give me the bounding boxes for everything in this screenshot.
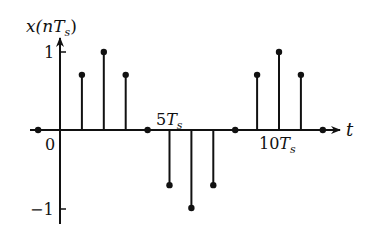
y-axis-label: x(nTs) — [26, 16, 77, 39]
x-axis-label: t — [346, 119, 354, 140]
stem-point — [254, 72, 260, 78]
stem-plot: x(nTs) 1 −1 0 5Ts 10Ts t — [0, 0, 368, 231]
stem-point — [188, 205, 194, 211]
stem-point — [298, 72, 304, 78]
stem-point — [166, 182, 172, 188]
x-tick-label-10Ts: 10Ts — [259, 134, 296, 156]
stem-point — [320, 127, 326, 133]
stem-point — [210, 182, 216, 188]
x-tick-label-5Ts: 5Ts — [156, 110, 183, 132]
y-tick-label-1: 1 — [44, 43, 54, 62]
y-tick-label-minus-1: −1 — [30, 200, 54, 219]
stem-point — [35, 127, 41, 133]
stem-point — [232, 127, 238, 133]
x-tick-label-0: 0 — [45, 135, 55, 154]
stem-point — [101, 49, 107, 55]
stem-point — [276, 49, 282, 55]
stem-point — [144, 127, 150, 133]
stem-point — [123, 72, 129, 78]
stem-point — [79, 72, 85, 78]
